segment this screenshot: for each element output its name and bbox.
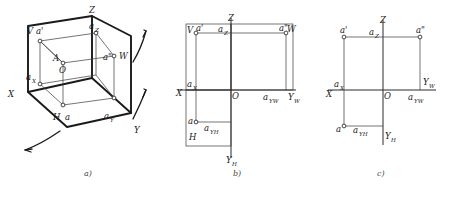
label-plane-w-b: W — [287, 24, 297, 34]
label-plane-v-a: V — [27, 26, 34, 36]
label-plane-v-b: V — [187, 25, 194, 35]
label-plane-h-b: H — [188, 132, 197, 142]
svg-text:Y: Y — [110, 117, 115, 123]
svg-text:a: a — [369, 27, 374, 37]
panel-a: X Y Z V H W a' A O a" a a X a Z a Y a) — [7, 5, 146, 178]
panel-b: X Z Y H Y W V H W a' a" a O a X a Z a YH… — [175, 13, 301, 178]
label-axis-yh-b: Y H — [226, 155, 237, 167]
label-axis-yw-c: Y W — [423, 77, 436, 89]
svg-text:W: W — [294, 98, 301, 104]
point-a-marker-b — [194, 120, 198, 124]
label-point-ayh-b: a YH — [204, 123, 219, 135]
svg-text:YW: YW — [269, 98, 280, 104]
point-a-prime-marker-c — [342, 35, 346, 39]
svg-text:a: a — [104, 111, 109, 121]
svg-text:a: a — [408, 92, 413, 102]
caption-a: a) — [84, 169, 92, 178]
projection-figure: X Y Z V H W a' A O a" a a X a Z a Y a) — [0, 0, 450, 197]
label-point-a-c: a — [336, 124, 341, 134]
label-axis-yw-b: Y W — [288, 92, 301, 104]
point-ax-marker — [38, 82, 42, 86]
label-point-a-a: a — [65, 112, 70, 122]
svg-text:a: a — [334, 79, 339, 89]
label-point-origin-b: O — [232, 91, 239, 101]
svg-text:a: a — [263, 92, 268, 102]
svg-text:Z: Z — [94, 27, 99, 33]
caption-b: b) — [233, 169, 241, 178]
svg-text:a: a — [26, 72, 31, 82]
label-plane-h-a: H — [52, 112, 61, 122]
point-ay-marker — [112, 96, 116, 100]
svg-text:YW: YW — [414, 98, 425, 104]
point-a-prime-marker — [38, 39, 42, 43]
point-a-double-prime-marker-c — [418, 35, 422, 39]
svg-text:H: H — [390, 137, 396, 143]
rotation-arrow-left-head — [25, 149, 32, 152]
label-axis-x-b: X — [175, 88, 183, 98]
rotation-arrow-lower-head — [143, 89, 146, 97]
plane-w-diagonal-edge — [92, 78, 131, 113]
label-point-a-double-prime-b: a" — [279, 23, 288, 33]
label-point-a-b: a — [188, 116, 193, 126]
label-point-a-prime-b: a' — [196, 23, 203, 33]
label-point-a-prime-a: a' — [36, 26, 43, 36]
label-point-A-a: A — [52, 53, 59, 63]
point-a-marker-c — [342, 124, 346, 128]
svg-text:a: a — [89, 21, 94, 31]
label-point-ayh-c: a YH — [353, 125, 368, 137]
label-axis-yh-c: Y H — [385, 131, 396, 143]
label-point-az-b: a Z — [218, 24, 228, 36]
point-a-double-prime-marker — [112, 54, 116, 58]
label-axis-y-a: Y — [134, 125, 141, 135]
label-point-a-double-prime-a: a" — [103, 52, 112, 62]
svg-text:a: a — [204, 123, 209, 133]
label-point-origin-c: O — [384, 91, 391, 101]
label-axis-z-c: Z — [379, 15, 387, 25]
svg-text:a: a — [187, 79, 192, 89]
svg-text:X: X — [31, 78, 37, 84]
box-edge-bottom-back — [63, 98, 114, 105]
svg-text:Z: Z — [223, 30, 228, 36]
svg-text:YH: YH — [359, 131, 368, 137]
label-point-ayw-c: a YW — [408, 92, 425, 104]
svg-text:Z: Z — [374, 33, 379, 39]
plane-w-rect-b — [231, 24, 293, 90]
svg-text:a: a — [218, 24, 223, 34]
point-a-marker — [61, 103, 65, 107]
svg-text:H: H — [231, 161, 237, 167]
label-point-a-double-prime-c: a" — [416, 25, 425, 35]
projector-a-to-aprime — [40, 41, 63, 63]
label-point-ayw-b: a YW — [263, 92, 280, 104]
label-point-origin-a: O — [59, 65, 66, 75]
label-point-a-prime-c: a' — [340, 25, 347, 35]
svg-text:W: W — [429, 83, 436, 89]
rotation-arrow-left-curve — [25, 131, 60, 150]
label-point-ax-c: a X — [334, 79, 345, 91]
label-axis-x-c: X — [325, 89, 333, 99]
label-axis-z-b: Z — [227, 13, 235, 23]
figure-root: X Y Z V H W a' A O a" a a X a Z a Y a) — [0, 0, 450, 197]
panel-c: X Z Y H Y W a' a" a O a X a Z a YH a YW — [325, 15, 436, 178]
caption-c: c) — [377, 169, 385, 178]
label-axis-x-a: X — [7, 89, 15, 99]
label-point-az-a: a Z — [89, 21, 99, 33]
label-plane-w-a: W — [119, 51, 129, 61]
box-connector-br — [96, 75, 114, 98]
svg-text:YH: YH — [210, 129, 219, 135]
label-axis-z-a: Z — [88, 5, 96, 15]
label-point-ax-b: a X — [187, 79, 198, 91]
label-point-ay-a: a Y — [104, 111, 115, 123]
svg-text:a: a — [353, 125, 358, 135]
box-edge-top-front — [40, 33, 96, 41]
